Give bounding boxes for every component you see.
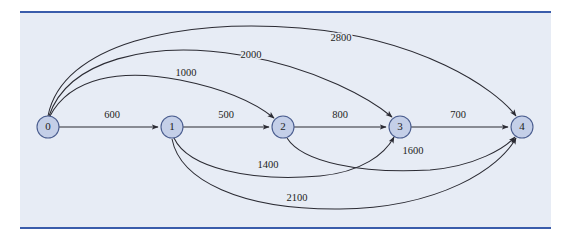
graph-node-4[interactable]: 4 — [511, 116, 533, 138]
edge-weight-label-2-3: 800 — [332, 109, 348, 120]
graph-node-3[interactable]: 3 — [389, 116, 411, 138]
node-label-4: 4 — [519, 120, 525, 132]
edge-weight-label-1-4: 2100 — [287, 192, 308, 203]
edge-weight-label-0-1: 600 — [104, 109, 120, 120]
edge-weight-label-0-4: 2800 — [331, 32, 352, 43]
graph-node-0[interactable]: 0 — [37, 116, 59, 138]
node-label-2: 2 — [280, 120, 286, 132]
node-label-3: 3 — [397, 120, 403, 132]
edge-weight-label-2-4: 1600 — [403, 145, 424, 156]
edge-weight-label-1-3: 1400 — [258, 159, 279, 170]
graph-canvas: 6006005005008008007007001000100020002000… — [0, 0, 569, 240]
edge-weight-label-3-4: 700 — [450, 109, 466, 120]
figure-root: 6006005005008008007007001000100020002000… — [0, 0, 569, 240]
edge-weight-label-0-2: 1000 — [176, 67, 197, 78]
edge-weight-label-0-3: 2000 — [241, 49, 262, 60]
node-label-0: 0 — [45, 120, 51, 132]
edge-weight-label-1-2: 500 — [218, 109, 234, 120]
node-label-1: 1 — [169, 120, 175, 132]
graph-node-2[interactable]: 2 — [272, 116, 294, 138]
graph-node-1[interactable]: 1 — [161, 116, 183, 138]
